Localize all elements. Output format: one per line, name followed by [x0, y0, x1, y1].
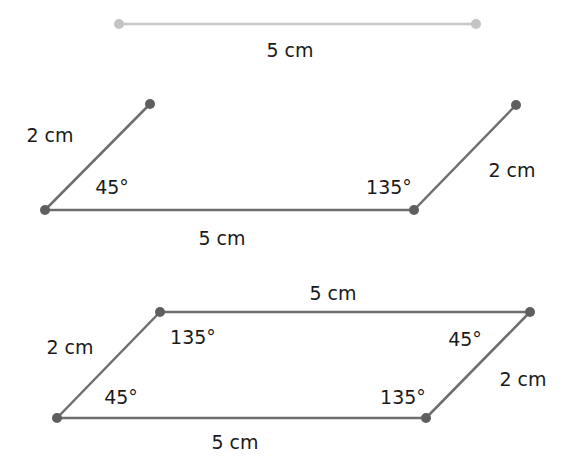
step3-top-label: 5 cm: [309, 282, 356, 304]
step3-top-left-angle-label: 135°: [170, 326, 216, 348]
step1-base-segment: 5 cm: [114, 19, 481, 61]
step3-bottom-label: 5 cm: [211, 431, 258, 453]
step2-partial-parallelogram: 2 cm 45° 135° 2 cm 5 cm: [26, 99, 535, 249]
step2-right-angle-label: 135°: [366, 176, 412, 198]
step1-base-label: 5 cm: [266, 39, 313, 61]
step3-bottom-left-angle-label: 45°: [104, 386, 138, 408]
step2-point-bottom-right: [409, 205, 419, 215]
step3-top-right-angle-label: 45°: [448, 328, 482, 350]
step1-point-left: [114, 19, 124, 29]
step3-point-top-right: [525, 307, 535, 317]
step2-point-top-right: [511, 100, 521, 110]
step2-left-angle-label: 45°: [95, 176, 129, 198]
step3-bottom-right-angle-label: 135°: [380, 386, 426, 408]
step3-point-top-left: [155, 307, 165, 317]
step3-right-side-label: 2 cm: [499, 368, 546, 390]
step2-point-top-left: [145, 99, 155, 109]
step2-right-side-label: 2 cm: [488, 159, 535, 181]
step3-point-bottom-left: [52, 413, 62, 423]
step1-point-right: [471, 19, 481, 29]
step2-point-bottom-left: [40, 205, 50, 215]
step2-right-side-line: [414, 105, 516, 210]
step2-base-label: 5 cm: [198, 227, 245, 249]
parallelogram-construction-diagram: 5 cm 2 cm 45° 135° 2 cm 5 cm 5 cm 2 cm 1…: [0, 0, 570, 467]
step3-complete-parallelogram: 5 cm 2 cm 135° 45° 2 cm 45° 135° 5 cm: [46, 282, 546, 453]
step3-left-side-label: 2 cm: [46, 336, 93, 358]
step2-left-side-label: 2 cm: [26, 124, 73, 146]
step3-point-bottom-right: [421, 413, 431, 423]
